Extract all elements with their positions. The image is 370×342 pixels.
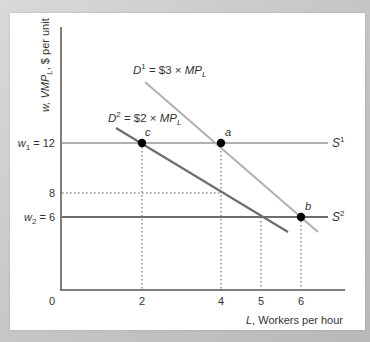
x-tick-5: 5 (258, 295, 264, 307)
y-tick-w1: w1 = 12 (18, 137, 55, 152)
y-tick-w2: w2 = 6 (24, 211, 55, 226)
point-b-label: b (305, 200, 311, 212)
x-axis-label: L, Workers per hour (246, 314, 343, 326)
y-axis-label: w, VMPL, $ per unit (39, 18, 54, 112)
x-tick-2: 2 (139, 295, 145, 307)
s1-label: S1 (332, 135, 345, 150)
point-a-label: a (225, 126, 231, 138)
x-tick-6: 6 (298, 295, 304, 307)
chart-svg: c a b S1 S2 D1 = $3 × MPL D2 = $2 × MPL … (0, 0, 370, 342)
s2-label: S2 (332, 209, 345, 224)
point-b (297, 213, 305, 221)
d1-label: D1 = $3 × MPL (133, 62, 206, 79)
point-c-label: c (145, 126, 151, 138)
d1-line (145, 82, 318, 232)
point-c (138, 139, 146, 147)
point-a (217, 139, 225, 147)
x-tick-4: 4 (218, 295, 224, 307)
d2-label: D2 = $2 × MPL (108, 110, 181, 127)
x-tick-0: 0 (49, 295, 55, 307)
y-tick-8: 8 (49, 187, 55, 199)
